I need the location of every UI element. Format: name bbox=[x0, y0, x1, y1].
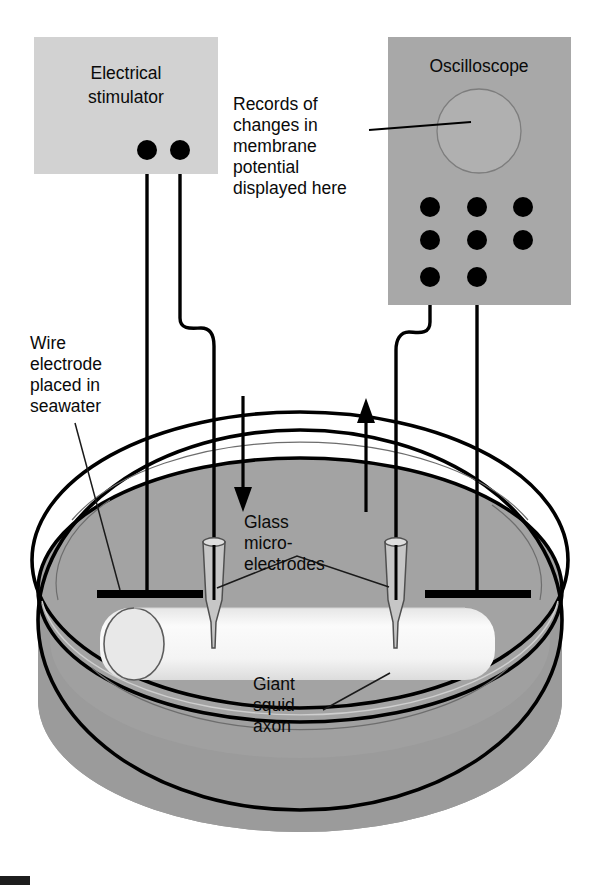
stimulator-terminal-2[interactable] bbox=[170, 140, 190, 160]
axon-end-cap bbox=[104, 608, 164, 680]
oscilloscope-jack-r1c2[interactable] bbox=[467, 197, 487, 217]
stimulator-terminal-1[interactable] bbox=[137, 140, 157, 160]
axon-line1: Giant bbox=[253, 674, 295, 694]
oscilloscope-jack-r3c2[interactable] bbox=[467, 267, 487, 287]
annotation-wire-electrode: Wire electrode placed in seawater bbox=[30, 333, 102, 416]
records-line5: displayed here bbox=[233, 178, 347, 198]
pipette-left-mouth bbox=[203, 538, 225, 546]
axon-line2: squid bbox=[253, 695, 295, 715]
wire-electrode-line3: placed in bbox=[30, 375, 100, 395]
wire-electrode-line4: seawater bbox=[30, 396, 101, 416]
oscilloscope-panel[interactable]: Oscilloscope bbox=[388, 37, 571, 305]
oscilloscope-label: Oscilloscope bbox=[429, 56, 528, 76]
oscilloscope-jack-r3c1[interactable] bbox=[420, 267, 440, 287]
stimulator-label-line2: stimulator bbox=[88, 87, 164, 107]
electrical-stimulator-panel[interactable]: Electrical stimulator bbox=[34, 37, 218, 174]
wire-electrode-line2: electrode bbox=[30, 354, 102, 374]
annotation-records: Records of changes in membrane potential… bbox=[233, 94, 347, 198]
oscilloscope-screen[interactable] bbox=[437, 89, 521, 173]
microelectrodes-line3: electrodes bbox=[244, 554, 325, 574]
pipette-right-mouth bbox=[385, 538, 407, 546]
page-footer-mark bbox=[0, 876, 30, 885]
annotation-axon: Giant squid axon bbox=[253, 674, 295, 736]
oscilloscope-jack-r2c3[interactable] bbox=[513, 230, 533, 250]
microelectrodes-line2: micro- bbox=[244, 533, 293, 553]
wire-electrode-bar-right bbox=[425, 590, 531, 598]
records-line1: Records of bbox=[233, 94, 318, 114]
giant-squid-axon bbox=[100, 608, 495, 680]
wire-electrode-line1: Wire bbox=[30, 333, 66, 353]
oscilloscope-jack-r2c1[interactable] bbox=[420, 230, 440, 250]
stimulator-label-line1: Electrical bbox=[91, 63, 162, 83]
records-line3: membrane bbox=[233, 136, 317, 156]
axon-line3: axon bbox=[253, 716, 291, 736]
records-line4: potential bbox=[233, 157, 299, 177]
oscilloscope-jack-r1c3[interactable] bbox=[513, 197, 533, 217]
microelectrodes-line1: Glass bbox=[244, 512, 289, 532]
squid-axon-diagram: Electrical stimulator Oscilloscope bbox=[0, 0, 599, 885]
wire-electrode-bar-left bbox=[97, 590, 203, 598]
oscilloscope-jack-r2c2[interactable] bbox=[467, 230, 487, 250]
records-line2: changes in bbox=[233, 115, 318, 135]
oscilloscope-jack-r1c1[interactable] bbox=[420, 197, 440, 217]
figure-root: Electrical stimulator Oscilloscope bbox=[0, 0, 599, 885]
